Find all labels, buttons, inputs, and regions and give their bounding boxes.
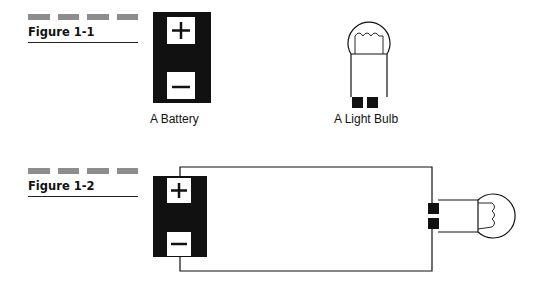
diagram-canvas (0, 0, 541, 292)
battery-icon (153, 176, 207, 257)
light-bulb-icon (348, 22, 390, 108)
light-bulb-icon (428, 194, 515, 238)
battery-caption: A Battery (150, 112, 199, 126)
light-bulb-caption: A Light Bulb (334, 112, 398, 126)
battery-icon (153, 12, 211, 103)
circuit-wires (180, 167, 432, 271)
